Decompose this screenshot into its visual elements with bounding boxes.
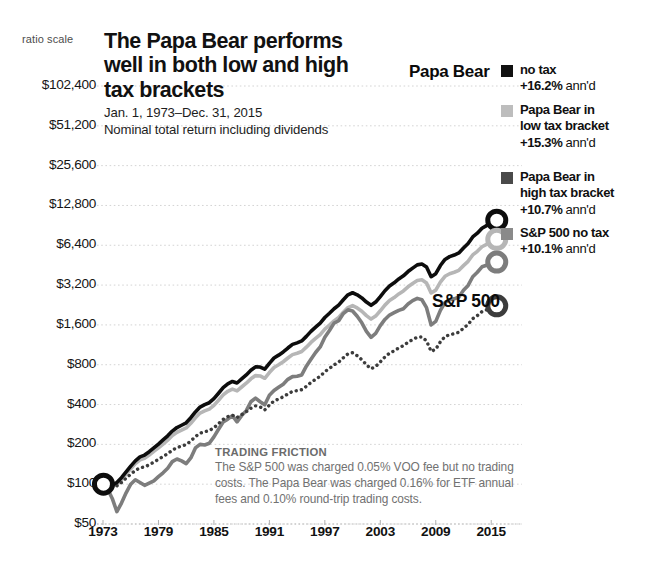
legend-annualized-suffix: ann'd: [562, 78, 595, 93]
legend-swatch: [501, 172, 513, 184]
legend-annualized-value: +10.7%: [520, 202, 562, 217]
legend-annualized: +10.1% ann'd: [520, 241, 653, 257]
chart-figure: ratio scale The Papa Bear performs well …: [0, 0, 654, 579]
x-tick-label: 1997: [295, 524, 355, 539]
y-tick-label: $6,400: [10, 236, 96, 251]
y-tick-label: $800: [10, 356, 96, 371]
y-tick-label: $400: [10, 396, 96, 411]
legend-annualized-suffix: ann'd: [562, 202, 595, 217]
y-tick-label: $102,400: [10, 77, 96, 92]
chart-title: The Papa Bear performs well in both low …: [104, 29, 374, 102]
chart-subtitle-daterange: Jan. 1, 1973–Dec. 31, 2015: [104, 105, 404, 122]
legend-annualized-suffix: ann'd: [562, 241, 595, 256]
legend-annualized-value: +16.2%: [520, 78, 562, 93]
legend-series-name-cont: high tax bracket: [520, 185, 653, 201]
legend-annualized: +15.3% ann'd: [520, 135, 653, 151]
x-tick-label: 2003: [350, 524, 410, 539]
y-tick-label: $200: [10, 435, 96, 450]
endpoint-marker: [94, 475, 112, 493]
x-tick-label: 1973: [73, 524, 133, 539]
x-tick-label: 1985: [184, 524, 244, 539]
y-tick-label: $12,800: [10, 196, 96, 211]
x-tick-label: 1991: [239, 524, 299, 539]
legend-series-name: Papa Bear in: [520, 102, 653, 118]
x-tick-label: 2015: [461, 524, 521, 539]
legend-item[interactable]: Papa Bear inlow tax bracket+15.3% ann'd: [501, 102, 653, 151]
inline-label-sp500: S&P 500: [432, 291, 500, 312]
y-tick-label: $25,600: [10, 157, 96, 172]
y-tick-label: $1,600: [10, 316, 96, 331]
legend-label: Papa Bear inhigh tax bracket+10.7% ann'd: [520, 169, 653, 218]
x-tick-label: 2009: [406, 524, 466, 539]
x-tick-label: 1979: [128, 524, 188, 539]
trading-friction-note: TRADING FRICTION The S&P 500 was charged…: [215, 446, 520, 507]
chart-subtitle: Jan. 1, 1973–Dec. 31, 2015 Nominal total…: [104, 105, 404, 139]
legend-series-name: Papa Bear in: [520, 169, 653, 185]
legend-annualized-value: +10.1%: [520, 241, 562, 256]
legend-label: no tax+16.2% ann'd: [520, 62, 653, 95]
legend-annualized: +10.7% ann'd: [520, 202, 653, 218]
note-body: The S&P 500 was charged 0.05% VOO fee bu…: [215, 460, 520, 507]
legend-annualized-suffix: ann'd: [562, 135, 595, 150]
legend-swatch: [501, 65, 513, 77]
chart-legend: no tax+16.2% ann'dPapa Bear inlow tax br…: [501, 62, 653, 265]
y-tick-label: $3,200: [10, 276, 96, 291]
legend-series-name: no tax: [520, 62, 653, 78]
legend-swatch: [501, 228, 513, 240]
x-axis-tick-labels: 19731979198519911997200320092015: [0, 524, 654, 550]
legend-label: S&P 500 no tax+10.1% ann'd: [520, 225, 653, 258]
note-title: TRADING FRICTION: [215, 446, 520, 458]
legend-swatch: [501, 105, 513, 117]
legend-item[interactable]: no tax+16.2% ann'd: [501, 62, 653, 95]
legend-series-name: S&P 500 no tax: [520, 225, 653, 241]
legend-series-name-cont: low tax bracket: [520, 118, 653, 134]
legend-label: Papa Bear inlow tax bracket+15.3% ann'd: [520, 102, 653, 151]
y-tick-label: $51,200: [10, 117, 96, 132]
legend-item[interactable]: Papa Bear inhigh tax bracket+10.7% ann'd: [501, 169, 653, 218]
chart-subtitle-basis: Nominal total return including dividends: [104, 122, 404, 139]
y-tick-label: $100: [10, 475, 96, 490]
y-axis-tick-labels: $102,400$51,200$25,600$12,800$6,400$3,20…: [0, 0, 96, 579]
legend-annualized-value: +15.3%: [520, 135, 562, 150]
legend-annualized: +16.2% ann'd: [520, 78, 653, 94]
inline-label-papa-bear: Papa Bear: [409, 62, 489, 82]
legend-item[interactable]: S&P 500 no tax+10.1% ann'd: [501, 225, 653, 258]
